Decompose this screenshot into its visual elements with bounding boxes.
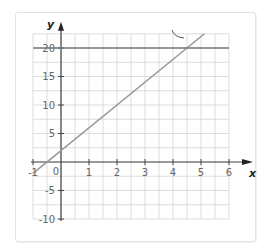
x-tick-label: 5: [198, 167, 204, 178]
x-tick-label: -1: [28, 167, 38, 178]
y-tick-label: -10: [39, 214, 55, 225]
y-tick-label: 20: [42, 43, 55, 54]
grid: [33, 34, 229, 219]
coordinate-graph: -112345602015105-5-10xy: [0, 0, 269, 252]
x-tick-label: 1: [86, 167, 92, 178]
y-tick-label: 10: [42, 100, 55, 111]
x-tick-label: 6: [226, 167, 232, 178]
axes: [31, 22, 253, 221]
y-tick-label: 5: [49, 128, 55, 139]
x-tick-label: 4: [170, 167, 176, 178]
y-axis-arrow-icon: [58, 22, 64, 31]
y-tick-label: 15: [42, 71, 55, 82]
origin-label: 0: [53, 166, 59, 177]
x-axis-arrow-icon: [242, 159, 253, 165]
y-axis-label: y: [47, 18, 55, 31]
x-axis-label: x: [248, 167, 257, 180]
y-tick-label: -5: [45, 185, 55, 196]
series-line: [33, 34, 205, 174]
x-tick-label: 2: [114, 167, 120, 178]
x-tick-label: 3: [142, 167, 148, 178]
